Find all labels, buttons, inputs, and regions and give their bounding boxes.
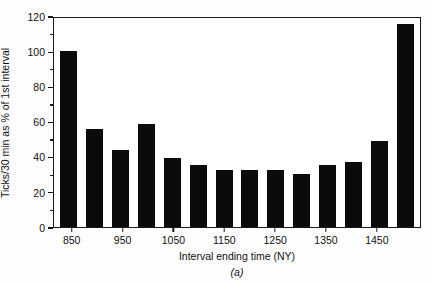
bar: [164, 158, 181, 227]
x-axis-tick-label: 1250: [263, 234, 286, 246]
tick-mark: [376, 228, 377, 232]
bar: [371, 141, 388, 227]
bar: [112, 150, 129, 227]
x-axis-tick-label: 1350: [314, 234, 337, 246]
bar: [345, 162, 362, 227]
bar: [138, 124, 155, 227]
y-axis-tick-label: 120: [27, 12, 45, 23]
figure: Ticks/30 min as % of 1st interval 020406…: [0, 0, 433, 283]
y-axis-tick-label: 20: [33, 188, 45, 199]
x-axis-tick: 1150: [213, 228, 236, 246]
bar: [293, 174, 310, 227]
x-axis-tick-label: 850: [63, 234, 81, 246]
tick-mark: [173, 228, 174, 232]
tick-mark: [122, 228, 123, 232]
bar: [241, 170, 258, 227]
bar: [267, 170, 284, 227]
tick-mark: [71, 228, 72, 232]
y-axis-tick-label: 40: [33, 152, 45, 163]
x-axis-tick: 1250: [263, 228, 286, 246]
x-axis-title: Interval ending time (NY): [53, 250, 421, 262]
bar: [86, 129, 103, 227]
y-axis-tick-label: 60: [33, 117, 45, 128]
x-axis-tick-label: 950: [114, 234, 132, 246]
y-axis-tick-label: 100: [27, 47, 45, 58]
tick-mark: [224, 228, 225, 232]
tick-mark: [274, 228, 275, 232]
bar: [319, 165, 336, 227]
bar: [216, 170, 233, 227]
x-axis-tick: 950: [114, 228, 132, 246]
plot-area: [53, 17, 421, 228]
x-axis-tick: 1350: [314, 228, 337, 246]
x-axis-tick-label: 1050: [162, 234, 185, 246]
y-axis-tick-label: 80: [33, 82, 45, 93]
panel-label: (a): [53, 266, 421, 278]
bar: [60, 51, 77, 227]
tick-mark: [325, 228, 326, 232]
x-axis-tick: 1450: [365, 228, 388, 246]
x-axis-tick: 1050: [162, 228, 185, 246]
x-axis-tick-label: 1450: [365, 234, 388, 246]
x-axis-tick: 850: [63, 228, 81, 246]
bar: [397, 24, 414, 227]
bar-series: [54, 18, 420, 227]
x-axis-tick-label: 1150: [213, 234, 236, 246]
y-axis-ticks: 020406080100120: [0, 0, 53, 283]
y-axis-tick-label: 0: [39, 223, 45, 234]
bar: [190, 165, 207, 227]
